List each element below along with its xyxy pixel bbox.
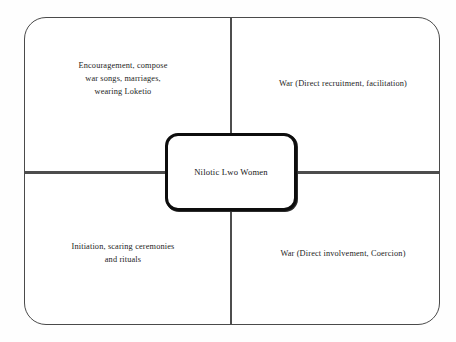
quadrant-bottom-left-line-2: and rituals xyxy=(33,254,213,267)
quadrant-top-left: Encouragement, compose war songs, marria… xyxy=(33,60,213,99)
quadrant-bottom-right: War (Direct involvement, Coercion) xyxy=(245,248,441,261)
quadrant-top-left-line-3: wearing Loketio xyxy=(33,86,213,99)
quadrant-top-right: War (Direct recruitment, facilitation) xyxy=(245,78,441,91)
quadrant-top-right-line-1: War (Direct recruitment, facilitation) xyxy=(245,78,441,91)
quadrant-top-left-line-1: Encouragement, compose xyxy=(33,60,213,73)
quadrant-top-left-line-2: war songs, marriages, xyxy=(33,73,213,86)
center-node-label: Nilotic Lwo Women xyxy=(194,167,268,177)
quadrant-bottom-left-line-1: Initiation, scaring ceremonies xyxy=(33,241,213,254)
quadrant-bottom-right-line-1: War (Direct involvement, Coercion) xyxy=(245,248,441,261)
quadrant-diagram: Encouragement, compose war songs, marria… xyxy=(0,0,456,342)
center-node: Nilotic Lwo Women xyxy=(165,133,297,211)
quadrant-bottom-left: Initiation, scaring ceremonies and ritua… xyxy=(33,241,213,267)
